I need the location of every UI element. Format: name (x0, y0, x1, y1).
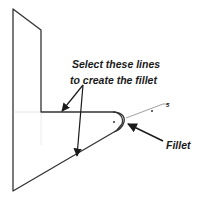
fillet-diagram: 5 Select these lines to create the fille… (0, 0, 201, 203)
select-lines-label-2: to create the fillet (70, 74, 157, 86)
construction-lines (15, 112, 41, 145)
dimension-dot (151, 110, 153, 112)
arrow-to-diagonal-line (77, 85, 83, 156)
fillet-label: Fillet (166, 139, 191, 151)
select-arrows (62, 85, 83, 156)
arrow-to-top-line (62, 85, 83, 111)
select-lines-label-1: Select these lines (72, 58, 160, 70)
dimension-leader (126, 104, 168, 118)
fillet-center-dot (113, 121, 115, 123)
profile-outline (13, 9, 123, 191)
dimension-value: 5 (166, 102, 170, 108)
arrow-to-fillet (128, 124, 163, 141)
